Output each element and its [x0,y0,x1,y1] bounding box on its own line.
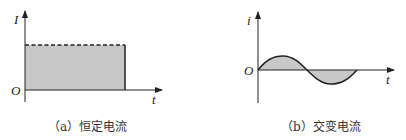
caption-constant-current: （a）恒定电流 [48,117,127,134]
x-axis-label: t [386,72,390,87]
caption-alternating-current: （b）交变电流 [281,117,361,134]
constant-current-graph: I O t [11,11,162,107]
x-axis-label: t [152,92,156,107]
y-axis-label: I [13,12,19,27]
alternating-current-graph: i O t [244,12,394,103]
area-fill [25,45,125,90]
origin-label: O [11,83,21,98]
origin-label: O [244,63,254,78]
y-axis-label: i [247,13,251,28]
